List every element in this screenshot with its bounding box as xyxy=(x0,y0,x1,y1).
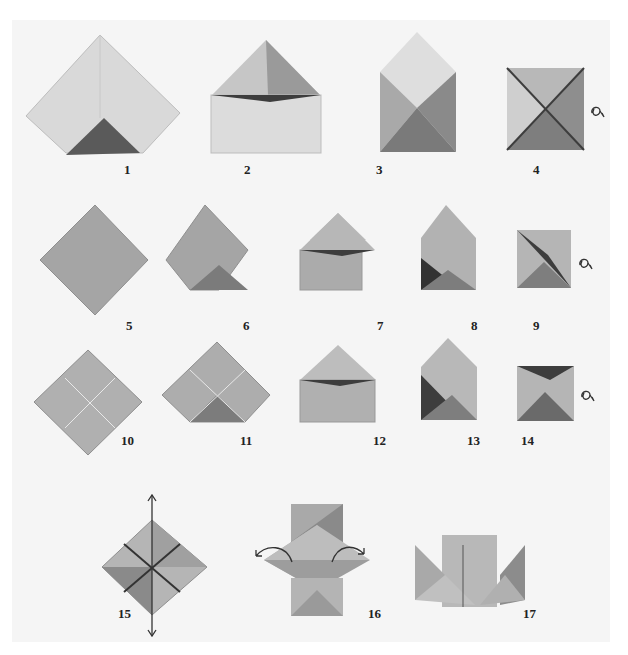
turn-over-arrow-icon xyxy=(578,387,600,405)
open-out-arrows-icon xyxy=(250,540,370,565)
step-label: 7 xyxy=(377,318,384,334)
turn-over-arrow-icon xyxy=(576,255,598,273)
step-label: 8 xyxy=(471,318,478,334)
step-label: 3 xyxy=(376,162,383,178)
step-label: 4 xyxy=(533,162,540,178)
step-label: 10 xyxy=(121,433,134,449)
step-label: 13 xyxy=(467,433,480,449)
step-label: 12 xyxy=(373,433,386,449)
step-label: 14 xyxy=(521,433,534,449)
step-label: 9 xyxy=(533,318,540,334)
step-label: 17 xyxy=(523,606,536,622)
step-label: 16 xyxy=(368,606,381,622)
turn-over-arrow-icon xyxy=(588,103,610,121)
step-label: 6 xyxy=(243,318,250,334)
step-label: 2 xyxy=(244,162,251,178)
step-label: 15 xyxy=(118,606,131,622)
pull-apart-arrows-icon xyxy=(146,493,158,638)
step-label: 1 xyxy=(124,162,131,178)
step-label: 5 xyxy=(126,318,133,334)
step-label: 11 xyxy=(240,433,252,449)
